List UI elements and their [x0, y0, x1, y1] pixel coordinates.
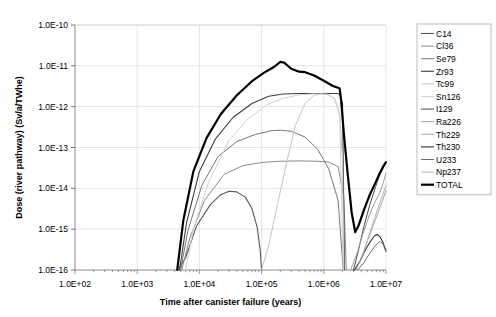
chart-container: 1.0E+021.0E+031.0E+041.0E+051.0E+061.0E+…: [0, 0, 496, 317]
legend-label-ra226[interactable]: Ra226: [436, 117, 461, 127]
x-tick-label: 1.0E+02: [59, 279, 91, 289]
x-tick-label: 1.0E+05: [246, 279, 278, 289]
legend-label-th230[interactable]: Th230: [436, 142, 460, 152]
dose-vs-time-log-log-chart: 1.0E+021.0E+031.0E+041.0E+051.0E+061.0E+…: [0, 0, 496, 317]
x-tick-label: 1.0E+04: [183, 279, 215, 289]
x-axis-title: Time after canister failure (years): [160, 297, 301, 307]
y-tick-label: 1.0E-14: [38, 183, 68, 193]
y-tick-label: 1.0E-12: [38, 102, 68, 112]
legend-label-total[interactable]: TOTAL: [436, 180, 463, 190]
legend-label-i129[interactable]: I129: [436, 104, 453, 114]
legend-label-sn126[interactable]: Sn126: [436, 92, 461, 102]
y-tick-label: 1.0E-15: [38, 224, 68, 234]
x-tick-label: 1.0E+07: [370, 279, 402, 289]
legend[interactable]: C14Cl36Se79Zr93Tc99Sn126I129Ra226Th229Th…: [417, 24, 491, 195]
legend-label-np237[interactable]: Np237: [436, 167, 461, 177]
legend-label-tc99[interactable]: Tc99: [436, 79, 454, 89]
legend-label-zr93[interactable]: Zr93: [436, 67, 454, 77]
legend-label-c14[interactable]: C14: [436, 29, 452, 39]
legend-label-th229[interactable]: Th229: [436, 130, 460, 140]
legend-label-cl36[interactable]: Cl36: [436, 41, 454, 51]
legend-label-u233[interactable]: U233: [436, 155, 457, 165]
legend-label-se79[interactable]: Se79: [436, 54, 456, 64]
y-tick-label: 1.0E-13: [38, 143, 68, 153]
y-tick-label: 1.0E-10: [38, 20, 68, 30]
y-tick-label: 1.0E-11: [39, 61, 68, 71]
x-tick-label: 1.0E+06: [308, 279, 340, 289]
y-axis-title: Dose (river pathway) (Sv/a/TWhe): [14, 76, 24, 219]
x-tick-label: 1.0E+03: [121, 279, 153, 289]
y-tick-label: 1.0E-16: [38, 265, 68, 275]
